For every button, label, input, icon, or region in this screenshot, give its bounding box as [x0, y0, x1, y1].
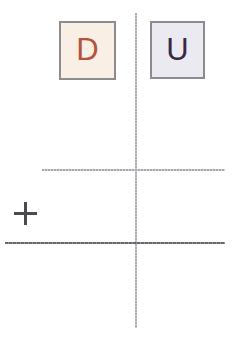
addend-separator-line	[42, 169, 225, 171]
sum-line	[5, 242, 225, 244]
column-header-ones[interactable]: U	[150, 21, 205, 79]
column-header-ones-label: U	[166, 34, 188, 65]
column-header-tens-label: D	[76, 34, 98, 65]
worksheet-canvas: D U	[0, 0, 238, 344]
plus-operator-icon	[14, 202, 37, 225]
column-header-tens[interactable]: D	[59, 21, 116, 80]
